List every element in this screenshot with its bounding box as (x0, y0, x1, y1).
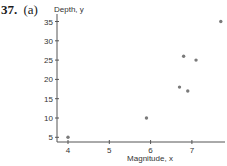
data-point (182, 55, 185, 58)
y-axis-title: Depth, y (54, 5, 84, 14)
y-tick-label: 30 (44, 37, 53, 46)
y-tick-label: 25 (44, 56, 53, 65)
scatter-plot: 5101520253035 4567 Depth, y Magnitude, x (0, 0, 227, 166)
data-point (178, 85, 181, 88)
data-point (186, 89, 189, 92)
y-tick-label: 5 (49, 133, 54, 142)
y-tick-label: 20 (44, 75, 53, 84)
x-tick-label: 4 (66, 146, 71, 155)
data-point (66, 136, 69, 139)
y-tick-label: 35 (44, 18, 53, 27)
data-point (194, 58, 197, 61)
data-point (219, 20, 222, 23)
y-tick-label: 15 (44, 95, 53, 104)
axes (57, 14, 225, 142)
data-points (66, 20, 222, 139)
x-tick-label: 7 (190, 146, 195, 155)
x-axis-title: Magnitude, x (127, 154, 173, 163)
data-point (145, 116, 148, 119)
x-tick-label: 5 (107, 146, 112, 155)
y-tick-label: 10 (44, 114, 53, 123)
